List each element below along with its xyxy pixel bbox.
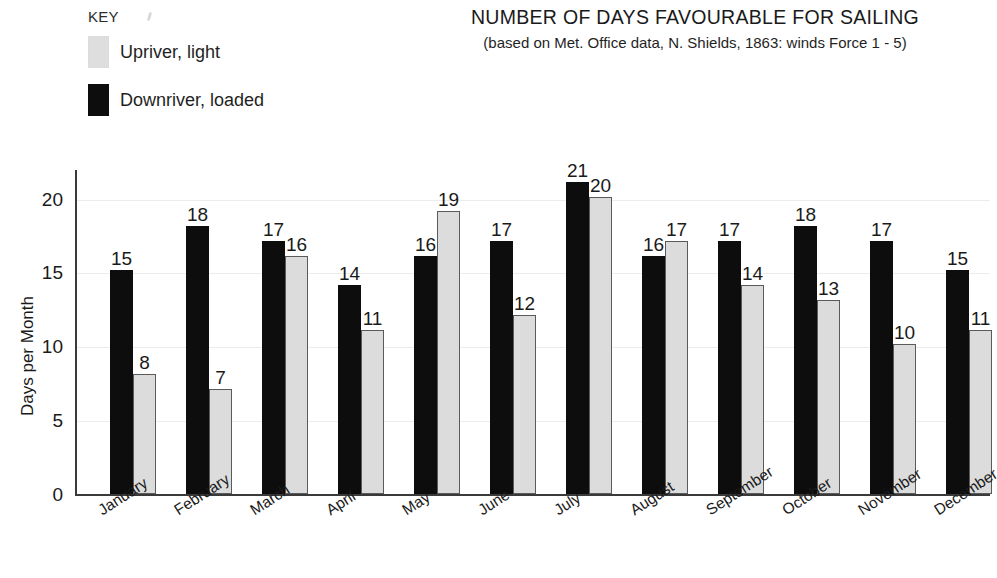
- bar-group: 1710: [853, 170, 929, 495]
- y-axis-tick-label: 10: [42, 336, 63, 358]
- bar-value-label: 11: [363, 309, 383, 328]
- scan-artifact-speck: [147, 12, 152, 21]
- axis-area: 05101520 1581871716141116191712212016171…: [75, 170, 990, 495]
- y-axis-tick-label: 20: [42, 189, 63, 211]
- legend-label-downriver: Downriver, loaded: [120, 90, 264, 111]
- bar-value-label: 17: [719, 220, 740, 239]
- bar-may-upriver[interactable]: 19: [437, 211, 460, 494]
- bar-november-downriver[interactable]: 17: [870, 241, 893, 494]
- bar-value-label: 19: [438, 190, 459, 209]
- bar-january-downriver[interactable]: 15: [110, 270, 133, 494]
- legend-title: KEY: [88, 8, 119, 25]
- legend-label-upriver: Upriver, light: [120, 42, 220, 63]
- y-axis-tick-label: 15: [42, 262, 63, 284]
- bar-june-downriver[interactable]: 17: [490, 241, 513, 494]
- bar-value-label: 13: [818, 279, 839, 298]
- bar-august-upriver[interactable]: 17: [665, 241, 688, 494]
- bar-august-downriver[interactable]: 16: [642, 256, 665, 494]
- bar-october-downriver[interactable]: 18: [794, 226, 817, 494]
- bar-group: 187: [169, 170, 245, 495]
- bar-value-label: 15: [947, 249, 968, 268]
- bar-group: 1813: [777, 170, 853, 495]
- bar-september-downriver[interactable]: 17: [718, 241, 741, 494]
- bar-value-label: 14: [742, 264, 763, 283]
- bar-value-label: 12: [514, 294, 535, 313]
- legend-swatch-upriver-icon: [88, 36, 109, 68]
- bar-april-upriver[interactable]: 11: [361, 330, 384, 495]
- bar-may-downriver[interactable]: 16: [414, 256, 437, 494]
- bar-value-label: 11: [971, 309, 991, 328]
- bar-june-upriver[interactable]: 12: [513, 315, 536, 494]
- bar-value-label: 7: [215, 368, 226, 387]
- legend-item-upriver: Upriver, light: [88, 36, 220, 68]
- bar-value-label: 17: [666, 220, 687, 239]
- y-axis-line: [75, 170, 77, 495]
- bar-group: 1716: [245, 170, 321, 495]
- bar-july-downriver[interactable]: 21: [566, 182, 589, 494]
- bar-value-label: 8: [139, 353, 150, 372]
- bar-october-upriver[interactable]: 13: [817, 300, 840, 494]
- bar-value-label: 17: [491, 220, 512, 239]
- bar-group: 1712: [473, 170, 549, 495]
- bar-value-label: 21: [567, 161, 588, 180]
- bar-value-label: 17: [871, 220, 892, 239]
- bar-march-downriver[interactable]: 17: [262, 241, 285, 494]
- bar-april-downriver[interactable]: 14: [338, 285, 361, 494]
- chart-title: NUMBER OF DAYS FAVOURABLE FOR SAILING: [400, 6, 990, 29]
- bar-group: 1619: [397, 170, 473, 495]
- bar-value-label: 10: [894, 323, 915, 342]
- bar-value-label: 16: [415, 235, 436, 254]
- bar-value-label: 14: [339, 264, 360, 283]
- bar-march-upriver[interactable]: 16: [285, 256, 308, 494]
- bar-value-label: 18: [187, 205, 208, 224]
- bar-value-label: 16: [286, 235, 307, 254]
- bar-group: 1617: [625, 170, 701, 495]
- chart-subtitle: (based on Met. Office data, N. Shields, …: [400, 34, 990, 51]
- bar-december-downriver[interactable]: 15: [946, 270, 969, 494]
- bar-september-upriver[interactable]: 14: [741, 285, 764, 494]
- bar-value-label: 17: [263, 220, 284, 239]
- bar-group: 1411: [321, 170, 397, 495]
- bar-july-upriver[interactable]: 20: [589, 197, 612, 494]
- chart-plot: Days per Month 05101520 1581871716141116…: [0, 150, 997, 578]
- bar-group: 1511: [929, 170, 997, 495]
- bar-group: 158: [93, 170, 169, 495]
- bar-february-downriver[interactable]: 18: [186, 226, 209, 494]
- bar-value-label: 18: [795, 205, 816, 224]
- bar-value-label: 15: [111, 249, 132, 268]
- legend-item-downriver: Downriver, loaded: [88, 84, 264, 116]
- bar-group: 1714: [701, 170, 777, 495]
- y-axis-title: Days per Month: [18, 236, 38, 476]
- legend: KEY Upriver, light Downriver, loaded: [88, 6, 408, 138]
- bar-group: 2120: [549, 170, 625, 495]
- bar-value-label: 20: [590, 176, 611, 195]
- title-block: NUMBER OF DAYS FAVOURABLE FOR SAILING (b…: [400, 6, 990, 51]
- bar-value-label: 16: [643, 235, 664, 254]
- y-axis-tick-label: 0: [52, 484, 63, 506]
- legend-swatch-downriver-icon: [88, 84, 109, 116]
- y-axis-tick-label: 5: [52, 410, 63, 432]
